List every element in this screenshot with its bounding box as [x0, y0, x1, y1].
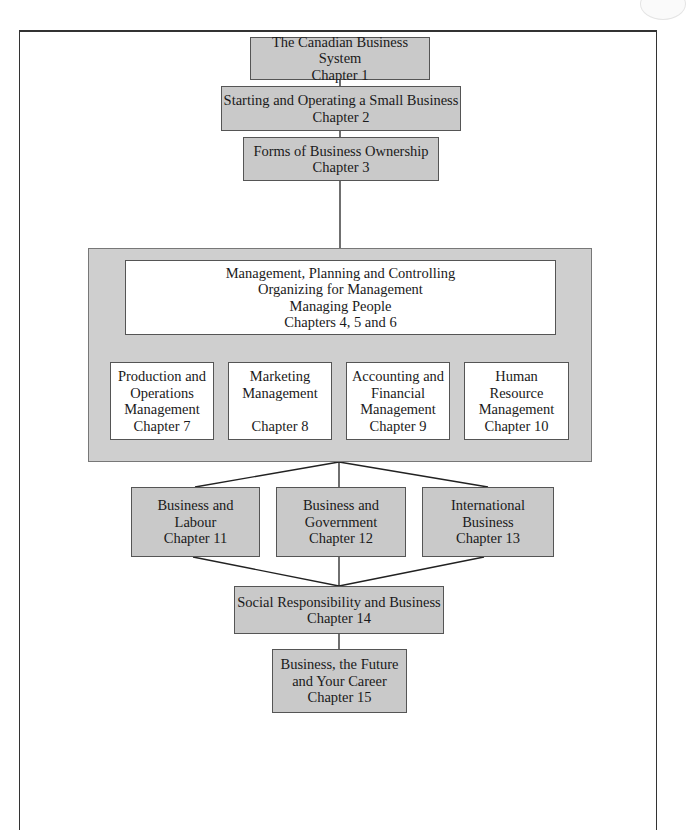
node-line: Resource	[490, 385, 544, 402]
node-chapter-2: Starting and Operating a Small Business …	[221, 86, 461, 131]
node-line: Accounting and	[352, 368, 444, 385]
node-line: Management	[242, 385, 318, 402]
node-line: Forms of Business Ownership	[253, 143, 428, 160]
node-line: Business and	[157, 497, 233, 514]
node-line: Chapter 15	[307, 689, 371, 706]
node-line: Chapter 11	[164, 530, 228, 547]
node-line: Starting and Operating a Small Business	[224, 92, 459, 109]
node-line: Production and	[118, 368, 206, 385]
node-line: Financial	[371, 385, 425, 402]
node-chapter-15: Business, the Future and Your Career Cha…	[272, 649, 407, 713]
node-line: Labour	[175, 514, 217, 531]
node-line: Chapter 9	[370, 418, 427, 435]
node-line: Chapter 3	[313, 159, 370, 176]
node-line: Business, the Future	[280, 656, 398, 673]
node-chapter-10: Human Resource Management Chapter 10	[464, 362, 569, 440]
node-line: Chapter 12	[309, 530, 373, 547]
node-line: Operations	[130, 385, 194, 402]
node-line: Chapter 10	[484, 418, 548, 435]
node-chapter-14: Social Responsibility and Business Chapt…	[234, 586, 444, 634]
node-line: Human	[495, 368, 538, 385]
node-line: Government	[305, 514, 377, 531]
node-line: Business and	[303, 497, 379, 514]
node-chapter-1: The Canadian Business System Chapter 1	[250, 37, 430, 80]
node-line: Managing People	[290, 298, 392, 315]
node-chapter-8: Marketing Management Chapter 8	[228, 362, 332, 440]
node-line: Management	[360, 401, 436, 418]
node-chapter-7: Production and Operations Management Cha…	[110, 362, 214, 440]
node-line: and Your Career	[292, 673, 387, 690]
node-chapter-3: Forms of Business Ownership Chapter 3	[243, 137, 439, 181]
node-line: Social Responsibility and Business	[237, 594, 440, 611]
node-line: The Canadian Business System	[251, 34, 429, 67]
node-line: Business	[462, 514, 514, 531]
node-chapters-4-5-6: Management, Planning and Controlling Org…	[125, 260, 556, 335]
node-line: Chapters 4, 5 and 6	[284, 314, 396, 331]
node-line: Management, Planning and Controlling	[226, 265, 456, 282]
node-line: Chapter 13	[456, 530, 520, 547]
node-line: Chapter 8	[252, 418, 309, 435]
node-chapter-13: International Business Chapter 13	[422, 487, 554, 557]
node-chapter-12: Business and Government Chapter 12	[276, 487, 406, 557]
node-chapter-9: Accounting and Financial Management Chap…	[346, 362, 450, 440]
node-line: Marketing	[250, 368, 310, 385]
node-line: Chapter 1	[312, 67, 369, 84]
node-line: Management	[124, 401, 200, 418]
node-line: Chapter 14	[307, 610, 371, 627]
node-line: Organizing for Management	[258, 281, 423, 298]
node-line: Chapter 7	[134, 418, 191, 435]
node-line: Chapter 2	[313, 109, 370, 126]
node-line: International	[451, 497, 525, 514]
node-chapter-11: Business and Labour Chapter 11	[131, 487, 260, 557]
node-line: Management	[479, 401, 555, 418]
